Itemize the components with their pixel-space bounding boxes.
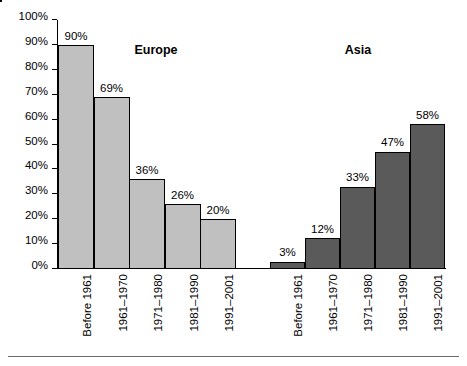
bar-asia-1971-1980 [340,187,375,269]
bar-asia-1991-2001 [410,124,445,269]
y-tick-label: 30% [25,185,48,197]
y-tick-mark [52,144,57,145]
x-label-asia-before-1961: Before 1961 [293,274,305,337]
bar-asia-before-1961 [270,262,305,269]
bar-europe-1971-1980 [129,179,165,269]
bar-europe-before-1961 [58,45,94,269]
x-label-europe-1991-2001: 1991–2001 [224,274,236,332]
bar-europe-1981-1990 [165,204,201,269]
group-title-europe: Europe [116,44,196,57]
bar-value-asia-1971-1980: 33% [340,172,375,184]
x-label-asia-1971-1980: 1971–1980 [363,274,375,332]
y-tick-mark [52,94,57,95]
y-tick-mark [52,193,57,194]
y-tick-label: 100% [19,11,48,23]
y-tick-label: 0% [31,260,48,272]
y-tick-mark [52,268,57,269]
y-tick-label: 20% [25,210,48,222]
y-tick-mark [52,218,57,219]
y-tick-mark [52,243,57,244]
bar-value-asia-1961-1970: 12% [305,224,340,236]
y-tick-mark [52,44,57,45]
bar-value-europe-1981-1990: 26% [165,190,201,202]
y-tick-mark [52,19,57,20]
bar-value-asia-1991-2001: 58% [410,110,445,122]
y-tick-mark [52,119,57,120]
x-label-europe-before-1961: Before 1961 [82,274,94,337]
bar-chart: 0% 10% 20% 30% 40% 50% 60% 70% 80% 90% 1… [0,0,467,366]
y-tick-label: 60% [25,111,48,123]
x-label-asia-1991-2001: 1991–2001 [433,274,445,332]
x-label-europe-1971-1980: 1971–1980 [153,274,165,332]
y-tick-mark [52,168,57,169]
x-label-asia-1981-1990: 1981–1990 [398,274,410,332]
bar-europe-1961-1970 [94,97,130,269]
group-title-asia: Asia [318,44,398,57]
y-tick-label: 10% [25,235,48,247]
bar-value-europe-1961-1970: 69% [94,83,130,95]
y-tick-label: 90% [25,36,48,48]
x-label-europe-1981-1990: 1981–1990 [189,274,201,332]
bar-europe-1991-2001 [200,219,236,269]
bar-value-europe-1971-1980: 36% [129,165,165,177]
y-tick-mark [52,69,57,70]
y-tick-label: 80% [25,61,48,73]
bottom-divider [8,356,459,357]
y-tick-label: 50% [25,136,48,148]
bar-value-europe-1991-2001: 20% [200,205,236,217]
bar-value-asia-1981-1990: 47% [375,137,410,149]
x-label-asia-1961-1970: 1961–1970 [328,274,340,332]
bar-asia-1981-1990 [375,152,410,269]
bar-value-asia-before-1961: 3% [270,247,305,259]
y-tick-label: 40% [25,160,48,172]
bar-asia-1961-1970 [305,238,340,269]
bar-value-europe-before-1961: 90% [58,31,94,43]
y-tick-label: 70% [25,86,48,98]
x-label-europe-1961-1970: 1961–1970 [118,274,130,332]
